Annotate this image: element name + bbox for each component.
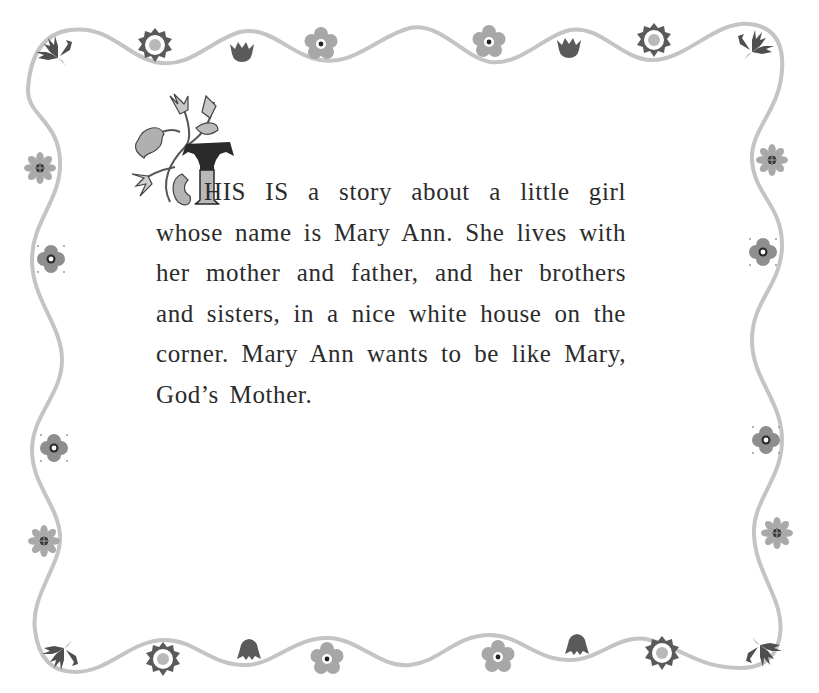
bellflower-icon — [565, 634, 589, 655]
story-line: corner. Mary Ann wants to be like Mary, — [156, 334, 626, 375]
story-line: whose name is Mary Ann. She lives with — [156, 213, 626, 254]
blossom-icon — [749, 238, 777, 266]
sunflower-icon — [637, 23, 671, 57]
story-page: HIS IS a story about a little girl whose… — [0, 0, 819, 693]
story-line: and sisters, in a nice white house on th… — [156, 294, 626, 335]
story-line: her mother and father, and her brothers — [156, 253, 626, 294]
story-line: HIS IS a story about a little girl — [156, 172, 626, 213]
daisy-icon — [311, 642, 344, 674]
daisy-icon — [473, 25, 506, 57]
story-text: HIS IS a story about a little girl whose… — [156, 172, 626, 415]
daisy-icon — [305, 27, 338, 59]
petal-flower-icon — [756, 144, 788, 176]
story-line: God’s Mother. — [156, 375, 626, 416]
petal-flower-icon — [28, 525, 60, 557]
leaf-sprig-icon — [36, 36, 72, 66]
tulip-icon — [557, 38, 581, 58]
sunflower-icon — [146, 642, 180, 676]
blossom-icon — [37, 245, 65, 273]
bellflower-icon — [237, 639, 261, 660]
blossom-icon — [40, 434, 68, 462]
leaf-sprig-icon — [42, 640, 78, 670]
petal-flower-icon — [761, 517, 793, 549]
tulip-icon — [230, 42, 254, 62]
petal-flower-icon — [24, 152, 56, 184]
leaf-sprig-icon — [738, 30, 774, 60]
blossom-icon — [752, 426, 780, 454]
daisy-icon — [482, 640, 515, 672]
